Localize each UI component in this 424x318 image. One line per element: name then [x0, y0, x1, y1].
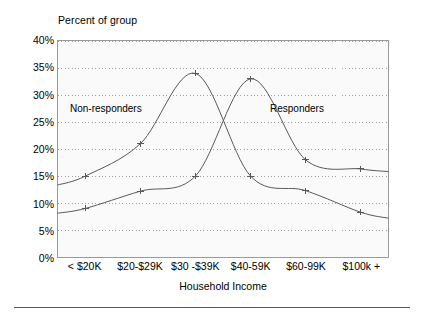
x-tick-label: $40-59K	[231, 260, 271, 272]
series-label-responders: Responders	[270, 103, 324, 114]
plot-area: Non-responders Responders	[57, 40, 389, 258]
series-lines	[58, 41, 388, 257]
chart-figure: Percent of group 0%5%10%15%20%25%30%35%4…	[0, 0, 424, 318]
bottom-divider	[14, 307, 410, 308]
x-tick-label: $30 -$39K	[171, 260, 219, 272]
series-line-1	[58, 79, 388, 213]
data-point-marker	[357, 209, 363, 215]
data-point-marker	[357, 166, 363, 172]
data-point-marker	[137, 188, 143, 194]
x-tick-label: $20-$29K	[117, 260, 163, 272]
y-tick-label: 5%	[8, 225, 54, 237]
y-tick-label: 25%	[8, 116, 54, 128]
y-tick-label: 20%	[8, 143, 54, 155]
y-tick-label: 30%	[8, 89, 54, 101]
y-tick-label: 10%	[8, 198, 54, 210]
data-point-marker	[82, 173, 88, 179]
y-tick-label: 15%	[8, 170, 54, 182]
series-label-non-responders: Non-responders	[70, 103, 142, 114]
y-tick-label: 0%	[8, 252, 54, 264]
data-point-marker	[82, 205, 88, 211]
y-axis-tick-labels: 0%5%10%15%20%25%30%35%40%	[6, 40, 54, 258]
x-tick-label: < $20K	[68, 260, 102, 272]
x-axis-tick-labels: < $20K$20-$29K$30 -$39K$40-59K$60-99K$10…	[57, 260, 389, 278]
series-line-0	[58, 73, 388, 218]
data-point-marker	[302, 188, 308, 194]
y-tick-label: 35%	[8, 61, 54, 73]
y-tick-label: 40%	[8, 34, 54, 46]
chart-title: Percent of group	[58, 14, 137, 26]
x-axis-title: Household Income	[57, 280, 389, 292]
data-point-marker	[192, 70, 198, 76]
x-tick-label: $60-99K	[286, 260, 326, 272]
x-tick-label: $100k +	[342, 260, 380, 272]
data-point-marker	[247, 76, 253, 82]
